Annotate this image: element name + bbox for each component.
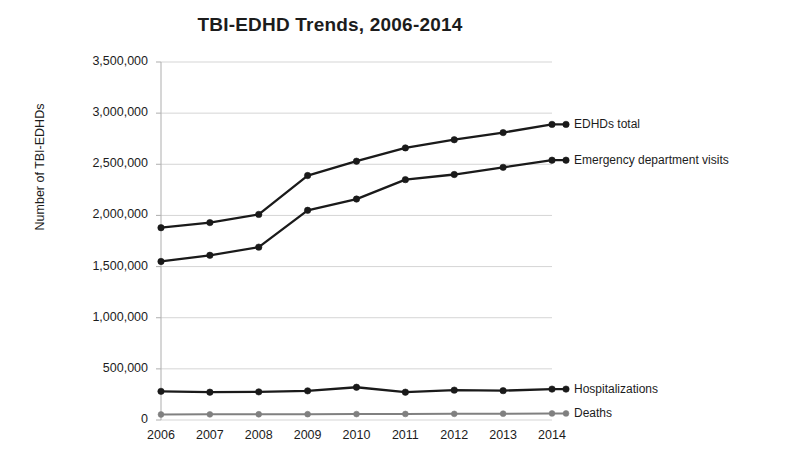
data-point [207,389,213,395]
plot-area [0,0,785,475]
series-line [161,160,566,261]
data-point [256,389,262,395]
data-point [353,196,359,202]
series-label: Hospitalizations [574,383,658,395]
data-point [549,157,555,163]
data-point [158,388,164,394]
series-end-marker [563,121,569,127]
data-point [353,384,359,390]
data-point [207,219,213,225]
data-point [256,211,262,217]
data-point [304,207,310,213]
data-point [451,387,457,393]
data-point [207,411,213,417]
data-point [158,412,164,418]
data-point [500,411,506,417]
data-point [256,244,262,250]
series-line [161,124,566,227]
data-point [549,121,555,127]
series-2 [158,157,569,265]
data-point [158,258,164,264]
series-label: Emergency department visits [574,154,729,166]
data-point [304,172,310,178]
data-point [354,411,360,417]
data-point [402,411,408,417]
series-3 [158,384,569,395]
data-point [451,171,457,177]
series-4 [158,411,569,418]
series-label: Deaths [574,407,612,419]
series-end-marker [563,411,569,417]
chart-container: TBI-EDHD Trends, 2006-2014 Number of TBI… [0,0,785,475]
data-point [402,389,408,395]
data-point [451,137,457,143]
data-point [402,145,408,151]
data-point [207,252,213,258]
data-point [353,158,359,164]
data-point [500,129,506,135]
data-point [500,164,506,170]
data-point [549,386,555,392]
data-point [305,411,311,417]
data-point [304,388,310,394]
data-point [500,387,506,393]
series-label: EDHDs total [574,118,640,130]
data-point [256,411,262,417]
series-end-marker [563,157,569,163]
data-point [549,411,555,417]
data-point [451,411,457,417]
series-1 [158,121,569,231]
series-end-marker [563,386,569,392]
data-point [402,176,408,182]
data-point [158,225,164,231]
